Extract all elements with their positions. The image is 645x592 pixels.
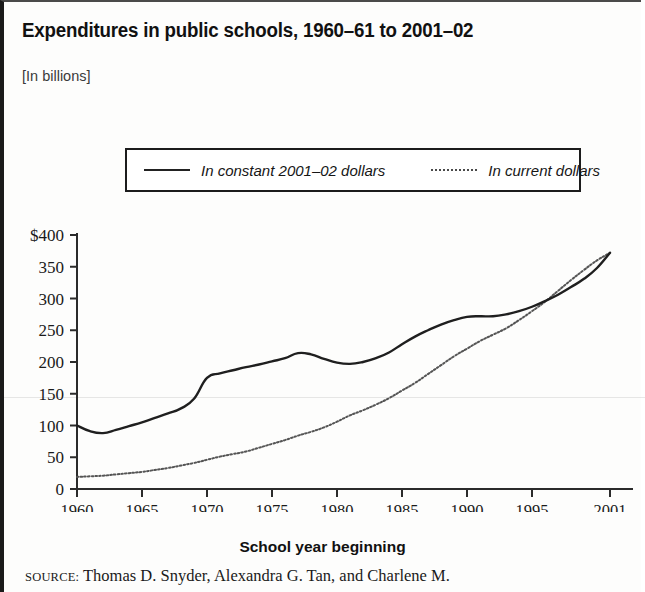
units-note: [In billions] [22,68,91,84]
x-axis-tick-label: 2001 [594,501,627,512]
x-axis-tick-label: 1980 [321,501,354,512]
x-axis-tick-label: 1990 [451,501,484,512]
page-title: Expenditures in public schools, 1960–61 … [22,19,473,42]
x-axis-tick-labels: 196019651970197519801985199019952001 [61,501,627,512]
x-axis-tick-label: 1970 [191,501,224,512]
y-axis-tick-label: 0 [56,480,65,499]
legend-item-current-dollars: In current dollars [431,162,600,179]
x-axis-tick-label: 1995 [516,501,549,512]
y-axis-tick-label: 200 [39,353,65,372]
x-axis-ticks [77,489,610,497]
legend-item-constant-dollars: In constant 2001–02 dollars [144,162,385,179]
plot-area: $400350300250200150100500 19601965197019… [4,212,641,512]
x-axis-tick-label: 1960 [61,501,94,512]
chart-legend: In constant 2001–02 dollars In current d… [125,148,581,192]
x-axis-title: School year beginning [4,538,641,556]
y-axis-tick-labels: $400350300250200150100500 [30,226,64,499]
y-axis-ticks [70,235,77,489]
y-axis-tick-label: $400 [30,226,64,245]
x-axis-tick-label: 1985 [386,501,419,512]
y-axis-tick-label: 50 [47,448,64,467]
y-axis-tick-label: 250 [39,321,65,340]
y-axis-tick-label: 150 [39,385,65,404]
chart-svg: $400350300250200150100500 19601965197019… [4,212,641,512]
figure-inner: Expenditures in public schools, 1960–61 … [4,2,641,592]
series-line-constant-dollars [77,253,610,433]
solid-line-swatch-icon [144,169,190,171]
source-note: SOURCE: Thomas D. Snyder, Alexandra G. T… [25,566,625,586]
dotted-line-swatch-icon [431,169,477,171]
source-label: SOURCE: [25,570,79,584]
series-line-current-dollars [77,253,610,477]
y-axis-tick-label: 100 [39,417,65,436]
legend-label-constant-dollars: In constant 2001–02 dollars [201,162,385,179]
x-axis-tick-label: 1975 [256,501,289,512]
y-axis-tick-label: 350 [39,258,65,277]
source-text: Thomas D. Snyder, Alexandra G. Tan, and … [79,566,450,585]
y-axis-tick-label: 300 [39,290,65,309]
x-axis-tick-label: 1965 [126,501,159,512]
legend-label-current-dollars: In current dollars [488,162,600,179]
